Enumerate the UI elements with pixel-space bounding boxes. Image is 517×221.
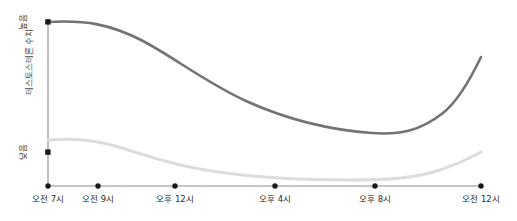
chart-plot-area	[0, 0, 517, 221]
x-tick-marker	[45, 183, 50, 188]
y-axis-label-high: 높음	[11, 5, 35, 39]
x-axis-label-3: 오후 4시	[259, 194, 291, 205]
series-line-lower	[48, 139, 481, 180]
x-tick-marker	[172, 183, 177, 188]
x-tick-marker	[272, 183, 277, 188]
x-axis-label-5: 오전 12시	[462, 194, 500, 205]
x-tick-marker	[478, 183, 483, 188]
y-tick-marker-high	[45, 19, 50, 24]
x-tick-marker	[372, 183, 377, 188]
series-line-upper	[48, 22, 481, 134]
x-axis-label-1: 오전 9시	[82, 194, 114, 205]
y-axis-label-low: 낮음	[11, 135, 35, 169]
testosterone-level-chart: 테스토스테론 수치 높음 낮음 오전 7시 오전 9시 오후 12시 오후 4시…	[0, 0, 517, 221]
y-tick-marker-low	[45, 149, 50, 154]
x-axis-label-4: 오후 8시	[359, 194, 391, 205]
x-axis-label-0: 오전 7시	[32, 194, 64, 205]
x-axis-label-2: 오후 12시	[156, 194, 194, 205]
x-tick-marker	[95, 183, 100, 188]
